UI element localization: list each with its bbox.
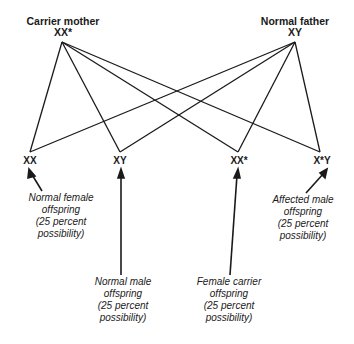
father-genotype: XY [242,27,348,38]
offspring-genotype-xy: XY [105,155,135,166]
mother-node: Carrier mother XX* [8,16,118,38]
offspring-genotype-affected-male: X*Y [305,155,339,166]
caption-affected-male: Affected male offspring (25 percent poss… [258,194,348,242]
offspring-genotype-xx-carrier: XX* [222,155,256,166]
father-node: Normal father XY [242,16,348,38]
caption-normal-female: Normal female offspring (25 percent poss… [16,192,106,240]
mother-genotype: XX* [8,27,118,38]
caption-female-carrier: Female carrier offspring (25 percent pos… [184,276,274,324]
inheritance-lines [0,0,354,344]
caption-normal-male: Normal male offspring (25 percent possib… [78,276,168,324]
offspring-genotype-xx: XX [15,155,45,166]
